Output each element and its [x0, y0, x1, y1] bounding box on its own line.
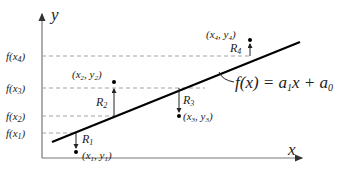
point-1-label: (x1, y1) [82, 149, 112, 163]
data-point-2 [112, 80, 116, 84]
data-point-4 [248, 38, 252, 42]
residual-r1-label: R1 [81, 132, 93, 147]
residual-r3-label: R3 [182, 93, 194, 108]
residual-r2-label: R2 [95, 95, 107, 110]
data-point-1 [74, 150, 78, 154]
point-3-label: (x3, y3) [183, 110, 213, 124]
tick-f-x4: f(x4) [6, 50, 26, 64]
point-2-label: (x2, y2) [72, 68, 102, 82]
data-point-3 [177, 114, 181, 118]
y-axis-label: y [49, 5, 59, 24]
regression-line [52, 42, 300, 142]
regression-diagram: y x f(x4) f(x3) f(x2) f(x1) R1 (x1, y1) … [0, 0, 360, 177]
point-4-label: (x4, y4) [206, 28, 236, 42]
tick-f-x3: f(x3) [6, 82, 26, 96]
residual-r4-label: R4 [229, 41, 241, 56]
equation-label: f(x) = a1x + a0 [235, 73, 333, 93]
tick-f-x2: f(x2) [6, 110, 26, 124]
tick-f-x1: f(x1) [6, 127, 26, 141]
x-axis-label: x [287, 140, 296, 159]
